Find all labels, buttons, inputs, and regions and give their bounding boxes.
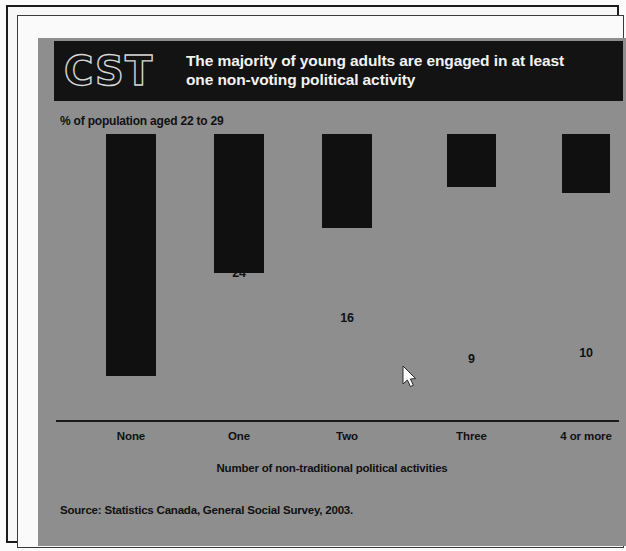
bar-group-three: 9: [447, 134, 496, 422]
chart-title: The majority of young adults are engaged…: [186, 52, 623, 90]
x-tick-label-one: One: [214, 430, 264, 442]
x-tick-label-three: Three: [447, 430, 496, 442]
bar-one[interactable]: [214, 134, 264, 273]
x-axis-title: Number of non-traditional political acti…: [38, 462, 626, 474]
bar-four-or-more[interactable]: [562, 134, 610, 193]
screenshot-root: CST The majority of young adults are eng…: [0, 0, 626, 551]
plot-area: 42 24 16 9: [56, 134, 619, 422]
bar-group-two: 16: [322, 134, 372, 422]
page-inner-frame: CST The majority of young adults are eng…: [17, 15, 624, 548]
bar-value-none: 42: [106, 163, 156, 177]
bar-two[interactable]: [322, 134, 372, 228]
cst-wordmark-icon: CST: [64, 51, 153, 91]
page-outer-frame: CST The majority of young adults are eng…: [6, 5, 619, 543]
bar-value-four-or-more: 10: [562, 346, 610, 360]
x-tick-label-four-or-more: 4 or more: [556, 430, 616, 442]
bar-group-one: 24: [214, 134, 264, 422]
bar-value-one: 24: [214, 266, 264, 280]
chart-header-banner: CST The majority of young adults are eng…: [54, 41, 623, 101]
x-tick-label-none: None: [106, 430, 156, 442]
bar-group-none: 42: [106, 134, 156, 422]
y-axis-note: % of population aged 22 to 29: [60, 114, 224, 128]
bar-group-four-or-more: 10: [562, 134, 610, 422]
bar-value-two: 16: [322, 311, 372, 325]
bar-value-three: 9: [447, 352, 496, 366]
x-tick-label-two: Two: [322, 430, 372, 442]
bar-three[interactable]: [447, 134, 496, 187]
x-axis-tick-labels: None One Two Three 4 or more: [56, 430, 619, 452]
x-axis-line: [56, 420, 619, 422]
cst-logo: CST: [54, 51, 186, 91]
source-note: Source: Statistics Canada, General Socia…: [60, 504, 353, 516]
chart-panel: CST The majority of young adults are eng…: [38, 38, 626, 546]
